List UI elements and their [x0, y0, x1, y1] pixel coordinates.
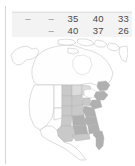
region-western-us — [29, 85, 54, 130]
table-cell — [12, 25, 34, 37]
table-cell: 40 — [82, 13, 107, 26]
region-arctic-islands — [94, 40, 107, 47]
table-cell: – — [34, 13, 57, 26]
table-cell: 40 — [57, 25, 81, 37]
region-great-plains — [62, 96, 72, 106]
region-arctic-islands — [107, 43, 120, 51]
region-midwest — [72, 95, 83, 106]
region-southeast — [93, 131, 104, 150]
figure-panel: – – 35 40 33 – 40 37 26 — [0, 0, 135, 166]
region-southeast — [72, 115, 86, 126]
region-northeast — [94, 91, 108, 100]
region-great-plains — [62, 106, 72, 116]
left-edge-rule — [5, 6, 6, 164]
table-cell: 26 — [107, 25, 132, 37]
table-cell: – — [12, 13, 34, 26]
table-cell: 33 — [107, 13, 132, 26]
region-arctic-islands — [58, 39, 76, 45]
region-western-us — [54, 85, 62, 108]
gulf-coast — [72, 134, 90, 141]
data-table: – – 35 40 33 – 40 37 26 — [12, 11, 132, 37]
region-great-plains — [62, 85, 72, 96]
region-arctic-islands — [77, 39, 94, 46]
region-western-us — [54, 108, 62, 120]
table-cell: 37 — [82, 25, 107, 37]
table-row: – 40 37 26 — [12, 25, 132, 37]
table-cell: – — [34, 25, 57, 37]
table-cell: 35 — [57, 13, 81, 26]
region-great-lakes-states — [72, 85, 82, 96]
region-greenland-edge — [119, 46, 128, 62]
table-row: – – 35 40 33 — [12, 13, 132, 26]
region-midwest — [72, 105, 84, 116]
region-great-plains — [61, 116, 72, 126]
region-southeast — [73, 125, 88, 135]
north-america-map — [10, 38, 128, 162]
